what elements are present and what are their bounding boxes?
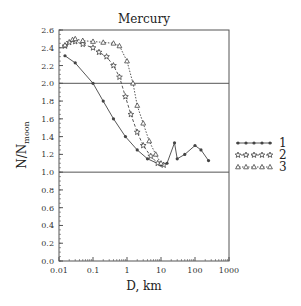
star-marker-icon <box>111 63 117 68</box>
dot-marker-icon <box>173 141 176 144</box>
plot-area: 0.00.20.40.60.81.01.21.41.61.82.02.22.42… <box>41 26 239 275</box>
dot-marker-icon <box>193 144 196 147</box>
y-tick-label: 2.2 <box>41 62 54 71</box>
y-tick-label: 1.8 <box>41 97 54 106</box>
x-tick-label: 10 <box>156 266 166 275</box>
legend-label: 3 <box>279 160 287 174</box>
triangle-marker-icon <box>147 138 152 142</box>
y-axis-title-main: N/N <box>15 144 29 169</box>
dot-marker-icon <box>112 117 115 120</box>
dot-marker-icon <box>260 141 263 144</box>
dot-marker-icon <box>244 141 247 144</box>
star-marker-icon <box>259 152 265 157</box>
y-tick-label: 0.2 <box>41 239 54 248</box>
y-tick-label: 1.2 <box>41 150 54 159</box>
star-marker-icon <box>123 94 129 99</box>
y-tick-label: 1.4 <box>41 133 54 142</box>
dot-marker-icon <box>236 141 239 144</box>
dot-marker-icon <box>124 135 127 138</box>
chart-canvas: Mercury 0.00.20.40.60.81.01.21.41.61.82.… <box>0 0 301 306</box>
triangle-marker-icon <box>244 164 249 168</box>
dot-marker-icon <box>176 157 179 160</box>
x-tick-label: 1000 <box>219 266 239 275</box>
series-2 <box>62 39 166 168</box>
star-marker-icon <box>104 54 110 59</box>
y-tick-label: 0.4 <box>41 221 54 230</box>
star-marker-icon <box>117 74 123 79</box>
triangle-marker-icon <box>268 164 273 168</box>
star-marker-icon <box>140 143 146 148</box>
star-marker-icon <box>251 152 257 157</box>
series-3 <box>63 36 164 165</box>
dot-marker-icon <box>207 159 210 162</box>
triangle-marker-icon <box>141 121 146 125</box>
star-marker-icon <box>243 152 249 157</box>
triangle-marker-icon <box>125 58 130 62</box>
dot-marker-icon <box>102 99 105 102</box>
star-marker-icon <box>128 111 134 116</box>
y-tick-label: 2.0 <box>41 79 54 88</box>
dot-marker-icon <box>252 141 255 144</box>
triangle-marker-icon <box>153 152 158 156</box>
star-marker-icon <box>235 152 241 157</box>
dot-marker-icon <box>183 153 186 156</box>
triangle-marker-icon <box>135 103 140 107</box>
svg-text:N/Nmoon: N/Nmoon <box>15 121 31 168</box>
x-axis-title: D, km <box>126 279 162 293</box>
x-tick-label: 100 <box>187 266 202 275</box>
y-axis-title: N/Nmoon <box>15 121 31 168</box>
dot-marker-icon <box>63 54 66 57</box>
dot-marker-icon <box>136 148 139 151</box>
y-tick-label: 1.6 <box>41 115 54 124</box>
series-line <box>65 42 164 166</box>
legend: 123 <box>235 136 286 174</box>
star-marker-icon <box>134 129 140 134</box>
y-tick-label: 1.0 <box>41 168 54 177</box>
legend-item-3: 3 <box>236 160 287 174</box>
dot-marker-icon <box>268 141 271 144</box>
y-tick-label: 2.6 <box>41 26 54 35</box>
y-axis-title-subscript: moon <box>22 121 31 143</box>
star-marker-icon <box>148 153 154 158</box>
dot-marker-icon <box>199 148 202 151</box>
x-tick-label: 0.01 <box>50 266 68 275</box>
chart-title: Mercury <box>118 12 170 26</box>
x-tick-label: 1 <box>124 266 129 275</box>
star-marker-icon <box>90 45 96 50</box>
triangle-marker-icon <box>101 40 106 44</box>
y-tick-label: 0.6 <box>41 204 54 213</box>
y-tick-label: 0.8 <box>41 186 54 195</box>
y-tick-label: 0.0 <box>41 257 54 266</box>
y-tick-label: 2.4 <box>41 44 54 53</box>
dot-marker-icon <box>91 82 94 85</box>
dot-marker-icon <box>74 61 77 64</box>
star-marker-icon <box>267 152 273 157</box>
series-1 <box>63 54 210 166</box>
x-tick-label: 0.1 <box>87 266 100 275</box>
